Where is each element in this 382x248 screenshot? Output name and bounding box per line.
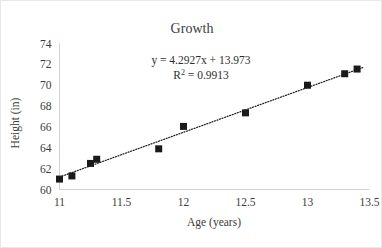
x-tick-label: 13.5 [359, 196, 379, 208]
y-tick-label: 68 [40, 100, 52, 112]
y-tick-label: 66 [40, 121, 52, 133]
x-axis-title: Age (years) [187, 216, 241, 229]
x-tick-label: 11.5 [112, 196, 132, 208]
data-point-marker [341, 70, 348, 77]
y-tick-label: 74 [40, 38, 52, 50]
data-point-marker [93, 156, 100, 163]
y-tick-label: 64 [40, 142, 52, 154]
r-squared-value: = 0.9913 [185, 69, 229, 81]
data-point-marker [68, 172, 75, 179]
y-tick-label: 62 [40, 163, 52, 175]
y-tick-label: 70 [40, 79, 52, 91]
data-point-marker [180, 123, 187, 130]
data-point-marker [56, 176, 63, 183]
r-squared-label: R2 = 0.9913 [173, 68, 229, 81]
x-tick-label: 11 [54, 196, 65, 208]
data-point-marker [304, 82, 311, 89]
y-tick-label: 60 [40, 184, 52, 196]
data-point-marker [155, 145, 162, 152]
chart-title: Growth [171, 21, 214, 36]
y-tick-label: 72 [40, 58, 52, 70]
y-axis-ticks: 6062646668707274 [40, 38, 52, 196]
data-point-marker [87, 160, 94, 167]
x-axis-ticks: 1111.51212.51313.5 [54, 196, 380, 208]
trendline-equation-label: y = 4.2927x + 13.973 [151, 54, 250, 67]
y-axis-title: Height (in) [9, 97, 22, 148]
x-tick-label: 12 [178, 196, 190, 208]
data-points [56, 66, 361, 183]
trendline [60, 67, 364, 177]
data-point-marker [242, 109, 249, 116]
x-tick-label: 12.5 [235, 196, 255, 208]
x-tick-label: 13 [302, 196, 314, 208]
trendline-path [60, 67, 364, 177]
data-point-marker [354, 66, 361, 73]
chart-container: Growth y = 4.2927x + 13.973 R2 = 0.9913 … [0, 0, 382, 248]
scatter-plot: Growth y = 4.2927x + 13.973 R2 = 0.9913 … [1, 1, 382, 248]
